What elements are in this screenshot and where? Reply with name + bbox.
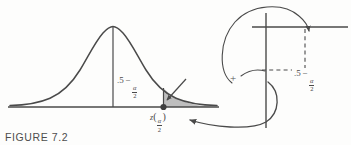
figure-caption: FIGURE 7.2 <box>5 131 68 143</box>
inset-label-denominator: 2 <box>310 86 314 93</box>
plus-to-table-row-arc <box>241 70 265 76</box>
z-label-close-paren: ) <box>162 111 165 122</box>
inset-label-numerator: α <box>310 78 314 85</box>
z-label-denominator: 2 <box>157 127 161 134</box>
inset-value-label: .5−α2 <box>294 63 315 93</box>
inset-label-operator: − <box>301 68 309 78</box>
tail-pointer-arrow <box>167 79 186 100</box>
z-label-open-paren: ( <box>153 111 156 122</box>
figure-container: .5−α2 z(α2) + .5−α2 FIGURE 7.2 <box>0 0 351 145</box>
z-critical-point-marker <box>160 104 166 110</box>
z-label-numerator: α <box>157 118 161 125</box>
curve-center-label-numerator: α <box>133 85 137 92</box>
z-critical-value-label: z(α2) <box>150 112 166 133</box>
curve-center-label-fraction: α2 <box>132 85 137 100</box>
curve-center-label-operator: − <box>124 75 132 85</box>
curve-center-label-denominator: 2 <box>133 93 137 100</box>
curve-center-area-label: .5−α2 <box>117 70 138 100</box>
inset-label-lead: .5 <box>294 68 301 78</box>
curve-center-label-lead: .5 <box>117 75 124 85</box>
plus-operator-symbol: + <box>230 73 236 84</box>
shaded-tail-region <box>164 89 219 108</box>
inset-label-fraction: α2 <box>309 78 314 93</box>
